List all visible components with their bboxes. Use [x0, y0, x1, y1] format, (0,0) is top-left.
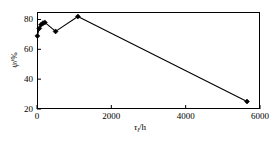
- chart-figure: 20406080 0200040006000 ψ/% τl/h: [0, 0, 279, 143]
- x-tick-label: 2000: [91, 112, 131, 121]
- x-tick-label: 6000: [240, 112, 279, 121]
- x-tick-label: 4000: [166, 112, 206, 121]
- data-series-line: [37, 16, 247, 101]
- y-tick-label: 80: [11, 15, 33, 24]
- x-axis-unit: /h: [139, 122, 146, 132]
- data-point-marker: [244, 99, 249, 104]
- y-axis-unit: /%: [9, 52, 19, 62]
- y-axis-label: ψ/%: [9, 40, 19, 80]
- x-tick-label: 0: [17, 112, 57, 121]
- x-axis-label: τl/h: [110, 122, 170, 135]
- data-point-marker: [35, 33, 40, 38]
